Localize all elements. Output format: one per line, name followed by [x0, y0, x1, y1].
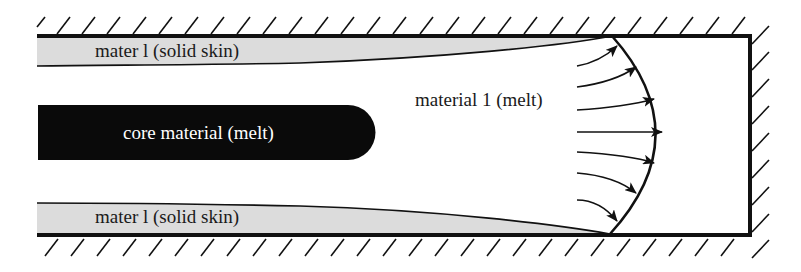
cavity-diagram: mater l (solid skin) mater l (solid skin…	[0, 0, 801, 272]
flow-arrow-3	[577, 99, 654, 110]
bottom-wall-hatching	[45, 239, 734, 256]
flow-arrow-2	[577, 67, 636, 87]
flow-arrow-6	[577, 173, 636, 193]
core-label: core material (melt)	[123, 122, 274, 144]
flow-arrow-1	[577, 46, 617, 66]
melt-label: material 1 (melt)	[415, 89, 543, 111]
top-skin-label: mater l (solid skin)	[95, 40, 239, 62]
flow-arrow-7	[577, 200, 617, 221]
flow-arrows	[577, 46, 662, 221]
flow-front	[610, 36, 656, 234]
top-wall-hatching	[37, 17, 745, 34]
right-wall-hatching	[752, 26, 769, 258]
bottom-skin-label: mater l (solid skin)	[95, 206, 239, 228]
flow-arrow-5	[577, 152, 654, 163]
